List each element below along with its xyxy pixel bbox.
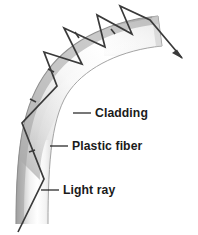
- label-plastic-fiber: Plastic fiber: [50, 139, 143, 153]
- exit-arrow-icon: [172, 50, 183, 60]
- fiber-optic-diagram: Cladding Plastic fiber Light ray: [0, 0, 198, 235]
- diagram-canvas: Cladding Plastic fiber Light ray: [0, 0, 198, 235]
- cladding-label: Cladding: [95, 106, 148, 120]
- plastic-fiber-label: Plastic fiber: [72, 139, 143, 153]
- label-cladding: Cladding: [73, 106, 148, 120]
- light-ray-label: Light ray: [63, 183, 115, 197]
- label-light-ray: Light ray: [41, 183, 115, 197]
